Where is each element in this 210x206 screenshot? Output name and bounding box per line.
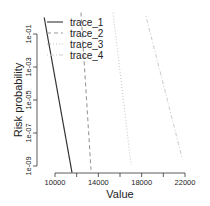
legend: trace_1trace_2trace_3trace_4 — [47, 17, 104, 61]
legend-label: trace_2 — [70, 28, 104, 39]
x-tick-label: 18000 — [131, 178, 152, 187]
legend-item-trace-4: trace_4 — [47, 50, 104, 61]
x-tick-label: 10000 — [45, 178, 66, 187]
y-axis: 1e-011e-031e-051e-071e-09 — [24, 24, 37, 175]
y-axis-label: Risk probability — [12, 62, 24, 137]
x-tick-label: 14000 — [88, 178, 109, 187]
series-trace-4 — [146, 16, 182, 158]
series-trace-1 — [44, 18, 72, 173]
plot-lines — [44, 13, 182, 173]
legend-label: trace_1 — [70, 17, 104, 28]
x-axis: 10000140001800022000 — [45, 173, 196, 187]
chart: 1e-011e-031e-051e-071e-09 10000140001800… — [0, 0, 210, 206]
y-tick-label: 1e-09 — [24, 156, 33, 175]
series-trace-3 — [113, 13, 131, 165]
legend-label: trace_4 — [70, 50, 104, 61]
legend-label: trace_3 — [70, 39, 104, 50]
y-tick-label: 1e-03 — [24, 57, 33, 76]
x-axis-label: Value — [106, 188, 133, 200]
y-tick-label: 1e-07 — [24, 123, 33, 142]
y-tick-label: 1e-01 — [24, 24, 33, 43]
legend-item-trace-2: trace_2 — [47, 28, 104, 39]
legend-item-trace-3: trace_3 — [47, 39, 104, 50]
x-tick-label: 22000 — [175, 178, 196, 187]
y-tick-label: 1e-05 — [24, 90, 33, 109]
legend-item-trace-1: trace_1 — [47, 17, 104, 28]
